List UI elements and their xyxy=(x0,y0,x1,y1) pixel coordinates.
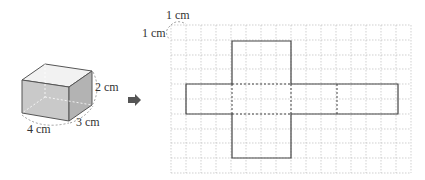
box-depth-label: 3 cm xyxy=(76,115,100,129)
unit-arcs xyxy=(167,22,187,40)
box-width-label: 4 cm xyxy=(27,122,51,136)
box-net-diagram: 2 cm 3 cm 4 cm 1 cm 1 cm xyxy=(0,0,425,180)
rectangular-box: 2 cm 3 cm 4 cm xyxy=(22,64,119,136)
box-height-label: 2 cm xyxy=(95,80,119,94)
unit-label-vertical: 1 cm xyxy=(142,26,166,40)
right-arrow-icon xyxy=(128,94,141,106)
unit-label-horizontal: 1 cm xyxy=(166,8,190,22)
box-front-face xyxy=(22,80,69,121)
